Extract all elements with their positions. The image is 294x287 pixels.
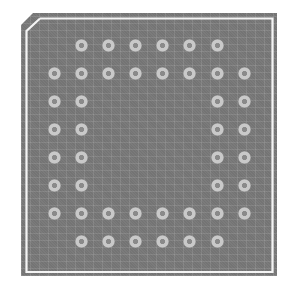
pad xyxy=(211,123,224,136)
pad xyxy=(75,123,88,136)
pad xyxy=(129,235,142,248)
pad xyxy=(48,179,61,192)
pad xyxy=(183,67,196,80)
pad xyxy=(75,39,88,52)
pad xyxy=(238,179,251,192)
pad xyxy=(102,235,115,248)
pad xyxy=(48,123,61,136)
pad xyxy=(102,39,115,52)
pad xyxy=(75,207,88,220)
pad xyxy=(183,235,196,248)
pad xyxy=(129,67,142,80)
pad xyxy=(75,95,88,108)
pad xyxy=(238,67,251,80)
pad xyxy=(211,67,224,80)
pad xyxy=(211,235,224,248)
pad xyxy=(183,207,196,220)
pad xyxy=(211,39,224,52)
pad xyxy=(102,207,115,220)
pad xyxy=(48,95,61,108)
pad xyxy=(75,235,88,248)
pad xyxy=(102,67,115,80)
pad xyxy=(211,179,224,192)
pad xyxy=(75,151,88,164)
pad xyxy=(129,39,142,52)
pad xyxy=(48,207,61,220)
pad xyxy=(75,67,88,80)
pad xyxy=(211,207,224,220)
pad xyxy=(156,39,169,52)
pad xyxy=(238,207,251,220)
pad xyxy=(156,235,169,248)
package-footprint-figure xyxy=(0,0,294,287)
pad xyxy=(48,151,61,164)
pad xyxy=(238,95,251,108)
pad xyxy=(183,39,196,52)
pad xyxy=(238,123,251,136)
pad xyxy=(238,151,251,164)
pad xyxy=(48,67,61,80)
pad xyxy=(156,207,169,220)
pad xyxy=(211,151,224,164)
pad xyxy=(75,179,88,192)
pad xyxy=(156,67,169,80)
pad xyxy=(129,207,142,220)
package-body xyxy=(21,13,277,276)
pad xyxy=(211,95,224,108)
